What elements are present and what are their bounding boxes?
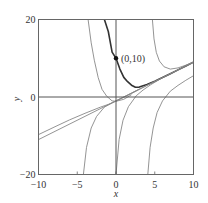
point-annotation: (0,10) (121, 53, 145, 65)
solution-curve (148, 76, 194, 175)
y-axis-label: y (11, 96, 22, 102)
solution-curve (152, 20, 193, 70)
y-tick-label: −20 (20, 169, 36, 180)
solution-curve (83, 89, 139, 174)
solution-curve (116, 80, 159, 175)
initial-point-marker (114, 56, 118, 60)
x-axis-label: x (113, 188, 119, 199)
x-tick-label: 5 (152, 179, 157, 190)
x-tick-label: −5 (72, 179, 83, 190)
x-tick-label: 10 (189, 179, 199, 190)
y-tick-label: 0 (31, 92, 36, 103)
chart: −10−50510−20020 (0,10) x y (0, 0, 208, 203)
solution-curve (104, 20, 193, 88)
y-tick-label: 20 (26, 14, 36, 25)
x-tick-label: −10 (31, 179, 47, 190)
